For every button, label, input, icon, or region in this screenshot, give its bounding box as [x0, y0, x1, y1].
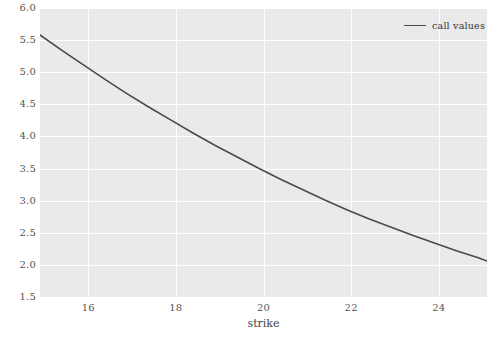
- x-tick-label: 16: [68, 302, 108, 313]
- y-tick-label: 4.0: [2, 131, 36, 141]
- plot-area: [40, 8, 487, 297]
- figure-caption: [4, 333, 124, 343]
- call-values-line: [40, 35, 487, 261]
- x-tick-label: 22: [331, 302, 371, 313]
- y-tick-label: 3.5: [2, 164, 36, 174]
- x-tick-label: 24: [419, 302, 459, 313]
- chart-figure: 1.52.02.53.03.54.04.55.05.56.0 161820222…: [0, 0, 501, 343]
- legend-label-call-values: call values: [432, 20, 485, 31]
- x-axis-title: strike: [40, 317, 487, 330]
- y-tick-label: 2.5: [2, 228, 36, 238]
- x-tick-label: 20: [244, 302, 284, 313]
- y-tick-label: 3.0: [2, 196, 36, 206]
- data-line-layer: [40, 8, 487, 297]
- y-tick-label: 5.0: [2, 67, 36, 77]
- x-tick-label: 18: [156, 302, 196, 313]
- y-tick-label: 4.5: [2, 99, 36, 109]
- y-tick-label: 6.0: [2, 3, 36, 13]
- y-tick-label: 1.5: [2, 292, 36, 302]
- y-tick-label: 5.5: [2, 35, 36, 45]
- legend: call values: [404, 20, 485, 31]
- y-tick-label: 2.0: [2, 260, 36, 270]
- x-axis-tick-labels: 1618202224: [40, 302, 487, 316]
- y-axis-tick-labels: 1.52.02.53.03.54.04.55.05.56.0: [0, 8, 36, 297]
- legend-line-swatch: [404, 25, 426, 26]
